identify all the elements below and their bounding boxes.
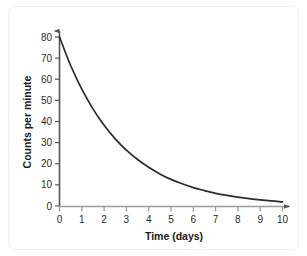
y-tick-label: 10	[41, 179, 53, 190]
x-tick-label: 9	[257, 214, 263, 225]
x-tick-label: 8	[235, 214, 241, 225]
x-tick-label: 10	[277, 214, 289, 225]
x-tick-label: 2	[101, 214, 107, 225]
y-tick-label: 0	[46, 201, 52, 212]
x-axis-title: Time (days)	[145, 230, 203, 242]
chart-figure: 0 10 20 30 40 50 60 70 80 0 1	[0, 0, 307, 256]
x-tick-label: 7	[213, 214, 219, 225]
x-axis-tick-labels: 0 1 2 3 4 5 6 7 8 9 10	[57, 214, 289, 225]
x-tick-label: 1	[79, 214, 85, 225]
y-tick-label: 80	[41, 32, 53, 43]
y-axis-tick-labels: 0 10 20 30 40 50 60 70 80	[41, 32, 53, 212]
decay-curve-line	[60, 37, 283, 202]
y-axis-title: Counts per minute	[21, 75, 33, 168]
y-tick-label: 50	[41, 95, 53, 106]
decay-curve-plot: 0 10 20 30 40 50 60 70 80 0 1	[0, 0, 307, 256]
y-tick-label: 20	[41, 158, 53, 169]
x-axis-ticks	[60, 207, 283, 212]
x-tick-label: 4	[146, 214, 152, 225]
x-tick-label: 3	[124, 214, 130, 225]
y-tick-label: 60	[41, 74, 53, 85]
y-tick-label: 70	[41, 53, 53, 64]
x-tick-label: 0	[57, 214, 63, 225]
y-tick-label: 30	[41, 137, 53, 148]
x-tick-label: 5	[168, 214, 174, 225]
x-tick-label: 6	[191, 214, 197, 225]
y-tick-label: 40	[41, 116, 53, 127]
